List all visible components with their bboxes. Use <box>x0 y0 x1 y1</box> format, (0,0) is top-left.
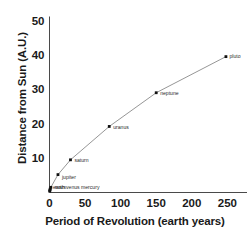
label-pluto: pluto <box>229 53 240 59</box>
x-tick-label: 50 <box>79 197 92 209</box>
x-tick-label: 0 <box>46 197 52 209</box>
y-tick-label: 10 <box>32 152 45 164</box>
y-tick-label: 40 <box>32 49 45 61</box>
x-tick-label: 100 <box>111 197 130 209</box>
y-axis-ticks: 1020304050 <box>32 15 45 165</box>
label-uranus: uranus <box>113 124 129 130</box>
y-tick-label: 50 <box>32 15 45 27</box>
data-point-neptune <box>155 91 158 94</box>
label-inner-planets-cluster: earth venus mercury <box>53 184 100 190</box>
label-saturn: saturn <box>74 157 88 163</box>
plot-area: 1020304050 050100150200250 marsjupitersa… <box>0 0 249 241</box>
data-point-mars <box>49 186 52 189</box>
label-jupiter: jupiter <box>61 174 76 180</box>
y-tick-label: 30 <box>32 83 45 95</box>
data-point-saturn <box>69 158 72 161</box>
x-axis-ticks: 050100150200250 <box>46 197 237 209</box>
data-markers <box>48 55 227 192</box>
data-line-planets <box>50 57 226 192</box>
chart-figure: Distance from Sun (A.U.) Period of Revol… <box>0 0 249 241</box>
data-point-labels: marsjupitersaturnuranusneptuneplutoearth… <box>53 53 241 190</box>
label-neptune: neptune <box>160 90 179 96</box>
data-point-jupiter <box>57 173 60 176</box>
y-tick-label: 20 <box>32 118 45 130</box>
x-tick-label: 250 <box>218 197 237 209</box>
x-tick-label: 200 <box>182 197 201 209</box>
data-point-pluto <box>225 55 228 58</box>
data-point-uranus <box>108 125 111 128</box>
x-tick-label: 150 <box>147 197 166 209</box>
